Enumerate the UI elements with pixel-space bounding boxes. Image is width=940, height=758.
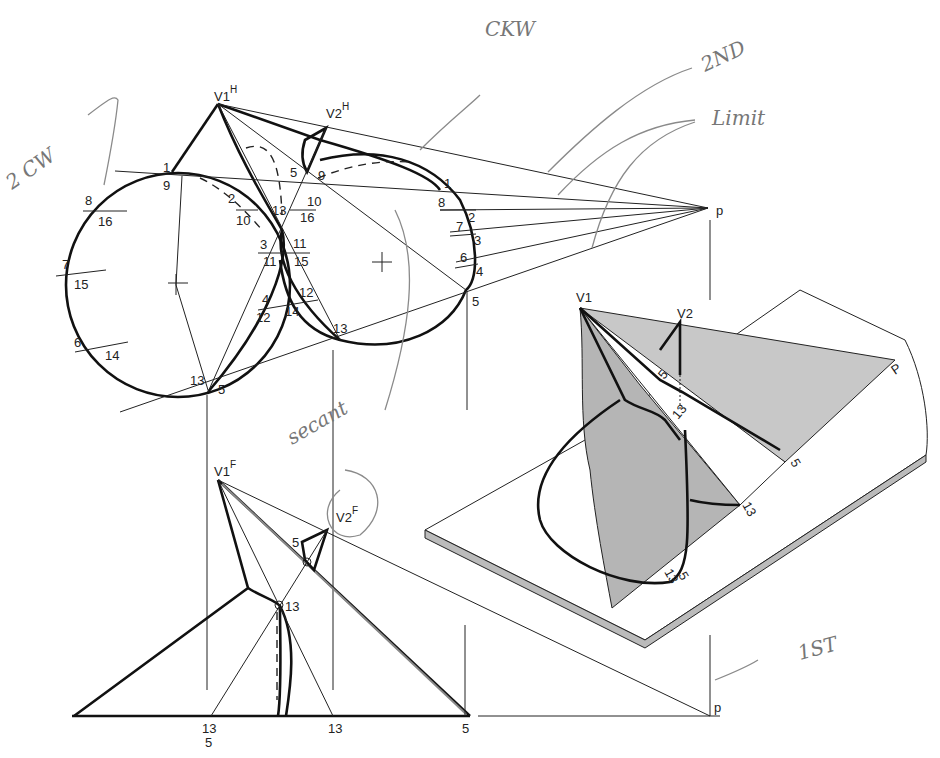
pencil-leader-2nd	[548, 68, 692, 172]
v2h-label: V2H	[326, 101, 349, 121]
front-base-5a: 5	[205, 735, 212, 750]
pencil-arrow-2cw	[88, 98, 118, 185]
p-front-label: p	[714, 700, 721, 715]
cone1-outline	[172, 104, 218, 172]
label-r3: 3	[474, 233, 481, 248]
label-15: 15	[74, 277, 88, 292]
label-14: 14	[105, 348, 119, 363]
label-r8: 8	[438, 195, 445, 210]
label-c11: 11	[263, 254, 277, 269]
label-c16: 16	[300, 210, 314, 225]
pencil-leader-top	[420, 95, 480, 150]
element-v1-to-right	[218, 104, 466, 290]
label-13: 13	[190, 373, 204, 388]
label-c2: 2	[228, 191, 235, 206]
v2f-label: V2F	[336, 505, 358, 525]
label-r6: 6	[460, 250, 467, 265]
pictorial-v1-label: V1	[576, 290, 592, 305]
label-c10: 10	[236, 213, 250, 228]
left-cone-base-circle	[66, 173, 290, 397]
v1h-label: V1H	[214, 84, 237, 104]
note-secant: secant	[283, 395, 353, 449]
label-c4: 4	[262, 292, 269, 307]
label-9: 9	[163, 178, 170, 193]
label-c5: 5	[290, 165, 297, 180]
note-2nd: 2ND	[696, 35, 749, 77]
label-c11b: 11	[293, 236, 307, 251]
front-intersection-left	[278, 606, 281, 716]
label-c15: 15	[294, 254, 308, 269]
label-c3: 3	[260, 237, 267, 252]
label-r2: 2	[468, 210, 475, 225]
label-c13: 13	[272, 203, 286, 218]
pencil-leader-secant	[385, 210, 409, 410]
label-c14: 14	[285, 304, 299, 319]
plane-line-5	[456, 208, 708, 262]
label-c12: 12	[256, 310, 270, 325]
plane-line-3	[440, 208, 708, 210]
pencil-leader-1st	[715, 660, 758, 680]
v1f-label: V1F	[214, 459, 236, 479]
label-c13b: 13	[333, 321, 347, 336]
cone-intersection-drawing: V1H V2H p 1 9 8 16 7 15 6 14 13 5 2 10 1…	[0, 0, 940, 758]
label-c9: 9	[318, 168, 325, 183]
pencil-circle-v2f	[327, 470, 377, 537]
pencil-leader-limit	[558, 120, 695, 195]
note-2cw: 2 CW	[0, 142, 61, 195]
label-6: 6	[74, 335, 81, 350]
pictorial-v2-label: V2	[677, 306, 693, 321]
note-limit: Limit	[711, 106, 766, 130]
label-1: 1	[163, 160, 170, 175]
pictorial-view: V1 V2 P 5 13 5 13 13 5	[425, 290, 927, 648]
label-r7: 7	[456, 219, 463, 234]
note-ckw: CKW	[485, 17, 537, 41]
note-1st: 1ST	[795, 631, 841, 665]
label-r1: 1	[444, 176, 451, 191]
front-label-5: 5	[292, 535, 299, 550]
front-base-13a: 13	[202, 721, 216, 736]
front-base-5b: 5	[462, 721, 469, 736]
p-top-label: p	[716, 203, 723, 218]
label-8: 8	[85, 193, 92, 208]
label-c10b: 10	[307, 194, 321, 209]
plane-line-4	[450, 208, 708, 232]
center-mark-right	[372, 252, 392, 272]
label-r5: 5	[472, 294, 479, 309]
label-7: 7	[62, 257, 69, 272]
front-element-2	[211, 530, 327, 716]
label-c12b: 12	[299, 285, 313, 300]
label-16: 16	[98, 214, 112, 229]
label-5: 5	[218, 382, 225, 397]
label-r4: 4	[476, 264, 483, 279]
front-base-13b: 13	[328, 721, 342, 736]
front-cone1-left	[74, 480, 248, 716]
front-label-13: 13	[285, 599, 299, 614]
radius-left	[176, 176, 182, 285]
